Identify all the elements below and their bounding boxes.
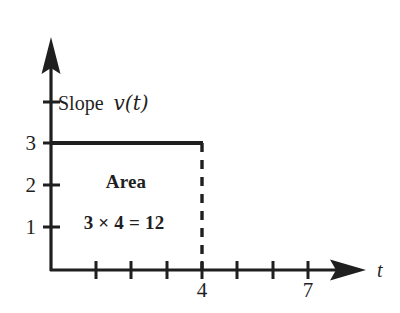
x-axis-variable-label: t: [377, 260, 383, 280]
area-caption-equation: 3 × 4 = 12: [84, 213, 165, 232]
y-axis-tick-label-1: 1: [16, 217, 36, 238]
slope-function-annotation: Slope v(t): [58, 93, 149, 113]
x-axis-tick-label-4: 4: [197, 280, 208, 301]
plot-canvas: [0, 0, 400, 313]
y-axis-tick-label-3: 3: [16, 133, 36, 154]
y-axis-tick-label-2: 2: [16, 175, 36, 196]
slope-annotation-prefix: Slope: [58, 92, 104, 114]
slope-annotation-function: v(t): [114, 91, 149, 115]
slope-area-figure: 3 2 1 4 7 t Slope v(t) Area 3 × 4 = 12: [0, 0, 400, 313]
area-caption-word: Area: [106, 172, 147, 191]
x-axis-tick-label-7: 7: [303, 280, 314, 301]
